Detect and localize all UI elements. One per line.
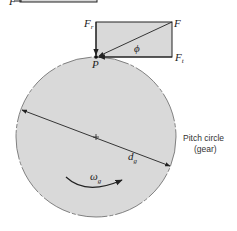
pitch-circle-caption-line1: Pitch circle: [183, 133, 224, 143]
top-force-label: F: [8, 0, 16, 7]
pressure-angle-label: ϕ: [134, 42, 140, 54]
gear-force-diagram: F dg ωg P Fr F Ft ϕ Pitch circle (gear): [0, 0, 237, 231]
point-p-label: P: [91, 58, 99, 70]
resultant-force-label: F: [173, 17, 181, 29]
radial-force-label: Fr: [83, 17, 94, 31]
pitch-circle-caption-line2: (gear): [194, 144, 217, 154]
tangential-force-label: Ft: [174, 51, 185, 65]
top-partial-force-box: [14, 0, 97, 2]
